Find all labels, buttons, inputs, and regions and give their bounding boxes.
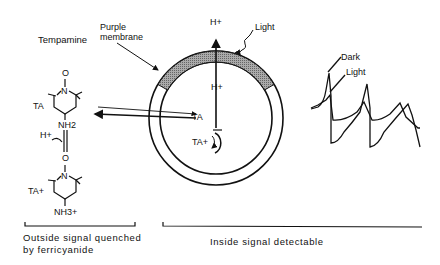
inner-ta-plus-label: TA+ xyxy=(192,137,208,147)
efflux-arrow xyxy=(95,114,196,118)
purple-label-2: membrane xyxy=(100,32,143,42)
purple-label-1: Purple xyxy=(100,22,126,32)
caption-brackets xyxy=(25,222,422,227)
nitrogen-bottom: N xyxy=(61,171,68,181)
proton-molecule-label: H+ xyxy=(40,130,52,140)
oxyl-top: O xyxy=(62,68,69,78)
outside-caption-2: by ferricyanide xyxy=(23,244,94,255)
oxyl-bottom: O xyxy=(62,153,69,163)
nitrogen-top: N xyxy=(61,86,68,96)
light-vesicle-label: Light xyxy=(255,22,275,32)
light-trace xyxy=(311,95,420,128)
ta-plus-bottom-label: TA+ xyxy=(28,186,44,196)
dark-trace-label: Dark xyxy=(341,52,360,62)
outer-proton-label: H+ xyxy=(210,17,222,27)
tempamine-label: Tempamine xyxy=(38,35,87,45)
tempamine-structure xyxy=(48,79,82,206)
membrane-leader xyxy=(117,43,158,70)
ta-cycle-arrow xyxy=(215,133,221,153)
light-trace-label: Light xyxy=(346,67,366,77)
inner-proton-label: H+ xyxy=(211,82,223,92)
inner-ta-label: TA xyxy=(192,112,203,122)
nh3-label: NH3+ xyxy=(54,207,77,217)
light-wavy-arrow xyxy=(239,30,253,55)
outside-caption-1: Outside signal quenched xyxy=(23,232,141,243)
influx-arrow xyxy=(98,107,196,114)
inside-caption: Inside signal detectable xyxy=(210,236,324,247)
nh2-label: NH2 xyxy=(58,120,76,130)
ta-top-label: TA xyxy=(33,101,44,111)
